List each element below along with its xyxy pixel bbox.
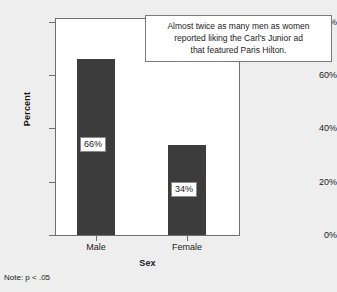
y-tick-mark-0: [49, 235, 55, 236]
x-axis-title: Sex: [55, 258, 240, 268]
annotation-line-1: Almost twice as many men as women: [152, 20, 325, 32]
x-axis-label-male: Male: [51, 242, 141, 252]
y-tick-label-40: 40%: [297, 122, 337, 134]
bar-value-male: 66%: [80, 137, 106, 152]
annotation-line-3: that featured Paris Hilton.: [152, 44, 325, 56]
y-tick-label-0: 0%: [297, 229, 337, 241]
y-tick-mark-60: [49, 75, 55, 76]
bar-chart: 80% 60% 40% 20% 0% Percent 66% 34% Male …: [0, 0, 337, 292]
y-tick-mark-40: [49, 128, 55, 129]
footnote: Note: p < .05: [4, 273, 50, 282]
y-tick-mark-80: [49, 22, 55, 23]
bar-value-female: 34%: [171, 182, 197, 197]
annotation-line-2: reported liking the Carl's Junior ad: [152, 32, 325, 44]
y-tick-label-20: 20%: [297, 176, 337, 188]
x-tick-mark-female: [187, 236, 188, 241]
y-axis-title: Percent: [22, 74, 32, 144]
annotation-callout: Almost twice as many men as women report…: [145, 15, 332, 62]
y-tick-label-60: 60%: [297, 69, 337, 81]
x-tick-mark-male: [96, 236, 97, 241]
y-tick-mark-20: [49, 182, 55, 183]
x-axis-label-female: Female: [142, 242, 232, 252]
